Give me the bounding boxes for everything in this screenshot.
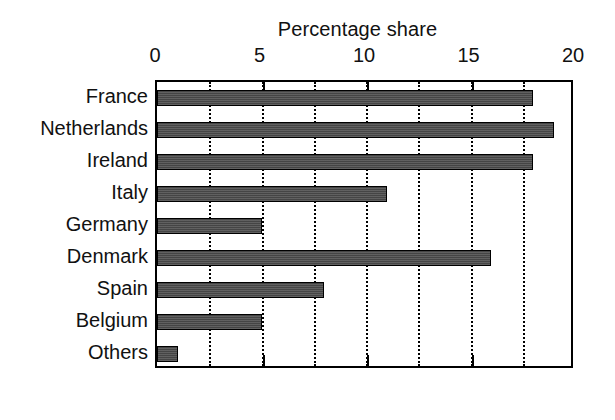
bar-row — [157, 314, 571, 330]
chart-title: Percentage share — [0, 18, 615, 41]
y-tick-label: Spain — [97, 278, 148, 298]
bar — [157, 282, 324, 298]
y-axis-category-labels: FranceNetherlandsIrelandItalyGermanyDenm… — [0, 80, 148, 368]
bar-row — [157, 186, 571, 202]
y-tick-label: Denmark — [67, 246, 148, 266]
bar-row — [157, 122, 571, 138]
bar — [157, 314, 262, 330]
bar — [157, 154, 533, 170]
bar-row — [157, 218, 571, 234]
x-tick-label: 15 — [457, 44, 479, 67]
plot-inner — [157, 82, 571, 366]
bar — [157, 186, 387, 202]
bar-row — [157, 90, 571, 106]
y-tick-label: Netherlands — [40, 118, 148, 138]
y-tick-label: France — [86, 86, 148, 106]
bar — [157, 90, 533, 106]
plot-area — [155, 80, 573, 368]
x-tick-label: 0 — [149, 44, 160, 67]
bar-row — [157, 154, 571, 170]
y-tick-label: Belgium — [76, 310, 148, 330]
bar-row — [157, 346, 571, 362]
y-tick-label: Italy — [111, 182, 148, 202]
y-tick-label: Germany — [66, 214, 148, 234]
bar-chart: Percentage share 05101520 FranceNetherla… — [0, 0, 615, 420]
bar — [157, 218, 262, 234]
y-tick-label: Ireland — [87, 150, 148, 170]
x-tick-label: 10 — [353, 44, 375, 67]
bar-row — [157, 282, 571, 298]
y-tick-label: Others — [88, 342, 148, 362]
x-tick-label: 20 — [562, 44, 584, 67]
x-tick-label: 5 — [254, 44, 265, 67]
bar — [157, 122, 554, 138]
bars-layer — [157, 82, 571, 366]
x-axis-tick-labels: 05101520 — [155, 44, 573, 70]
bar — [157, 346, 178, 362]
bar-row — [157, 250, 571, 266]
bar — [157, 250, 491, 266]
